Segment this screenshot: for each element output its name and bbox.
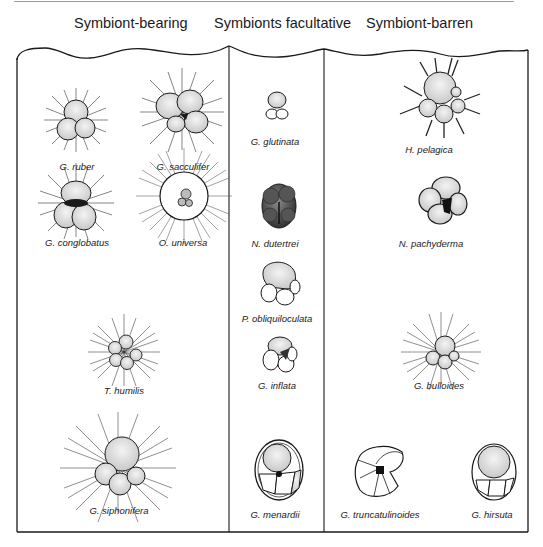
specimen-g-hirsuta <box>472 444 516 500</box>
label-n-pachyderma: N. pachyderma <box>399 238 463 249</box>
specimen-g-ruber <box>44 88 108 152</box>
specimen-g-truncatulinoides <box>355 446 403 496</box>
specimen-g-glutinata <box>266 92 288 119</box>
label-g-hirsuta: G. hirsuta <box>471 509 512 520</box>
label-g-inflata: G. inflata <box>258 380 296 391</box>
label-t-humilis: T. humilis <box>104 385 144 396</box>
specimen-g-inflata <box>263 337 297 372</box>
specimen-g-sacculifer <box>140 68 224 152</box>
label-h-pelagica: H. pelagica <box>405 144 453 155</box>
specimen-n-pachyderma <box>419 177 467 224</box>
label-p-obliquiloculata: P. obliquiloculata <box>242 313 313 324</box>
label-g-conglobatus: G. conglobatus <box>45 237 109 248</box>
label-g-glutinata: G. glutinata <box>251 136 300 147</box>
label-g-siphonifera: G. siphonifera <box>89 505 148 516</box>
label-g-truncatulinoides: G. truncatulinoides <box>340 509 419 520</box>
wavy-top-border <box>17 46 528 60</box>
label-g-ruber: G. ruber <box>60 161 95 172</box>
specimen-h-pelagica <box>400 58 480 138</box>
label-g-bulloides: G. bulloides <box>414 380 464 391</box>
specimen-g-bulloides <box>401 312 481 390</box>
diagram-frame <box>0 0 543 547</box>
label-g-menardii: G. menardii <box>250 509 299 520</box>
specimen-g-conglobatus <box>38 163 114 239</box>
label-g-sacculifer: G. sacculifer <box>157 161 210 172</box>
specimen-t-humilis <box>88 314 160 386</box>
label-n-dutertrei: N. dutertrei <box>252 238 299 249</box>
specimen-g-menardii <box>255 440 303 500</box>
specimen-n-dutertrei <box>262 184 296 228</box>
label-o-universa: O. universa <box>159 237 208 248</box>
specimen-p-obliquiloculata <box>261 262 300 305</box>
